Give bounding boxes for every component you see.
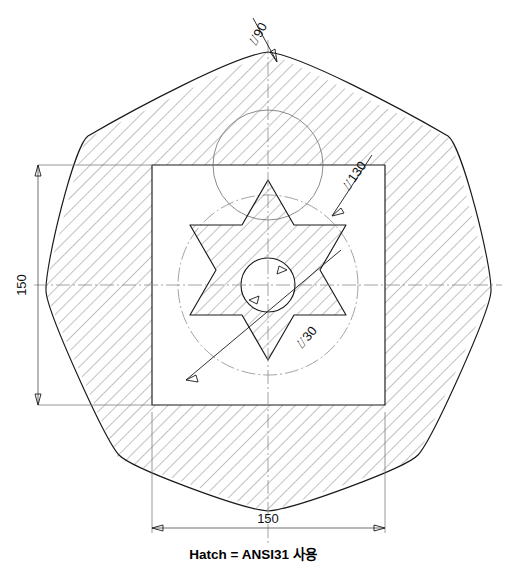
dimension-width-label: 150	[257, 511, 279, 526]
hexagram-star-group	[0, 0, 506, 585]
dimension-height-label: 150	[14, 274, 29, 296]
technical-drawing-canvas: 150 150 ⌰90 ⌰130 ⌰30	[0, 0, 506, 585]
cad-drawing-svg: 150 150 ⌰90 ⌰130 ⌰30	[0, 0, 506, 585]
star-hatch-fill	[0, 0, 506, 585]
drawing-caption: Hatch = ANSI31 사용	[189, 547, 316, 562]
